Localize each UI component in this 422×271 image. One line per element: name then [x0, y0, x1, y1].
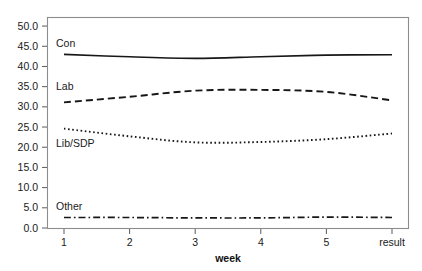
y-tick-label: 10.0	[18, 181, 39, 193]
y-tick-label: 5.0	[23, 201, 38, 213]
series-line-other	[64, 217, 392, 218]
series-line-lib-sdp	[64, 129, 392, 143]
series-inline-label-group: ConLabLib/SDPOther	[56, 37, 95, 211]
x-tick-label: 2	[127, 236, 133, 248]
series-label-con: Con	[56, 37, 75, 49]
y-tick-label: 25.0	[18, 121, 39, 133]
series-group	[64, 54, 392, 218]
page-caption	[0, 257, 422, 271]
y-tick-label: 35.0	[18, 80, 39, 92]
y-tick-label: 45.0	[18, 40, 39, 52]
series-label-other: Other	[56, 200, 83, 212]
line-chart: 0.05.010.015.020.025.030.035.040.045.050…	[0, 0, 422, 271]
y-axis-tick-group	[42, 26, 48, 228]
plot-frame	[48, 18, 409, 229]
y-tick-label: 30.0	[18, 100, 39, 112]
x-axis-tick-group	[64, 229, 392, 235]
x-tick-label: result	[379, 236, 405, 248]
y-tick-label: 50.0	[18, 20, 39, 32]
x-tick-label: 5	[323, 236, 329, 248]
series-label-lib-sdp: Lib/SDP	[56, 137, 95, 149]
y-tick-label: 40.0	[18, 60, 39, 72]
series-label-lab: Lab	[56, 80, 74, 92]
x-tick-label: 4	[258, 236, 264, 248]
y-tick-label: 20.0	[18, 141, 39, 153]
y-tick-label: 0.0	[23, 222, 38, 234]
series-line-con	[64, 54, 392, 58]
y-tick-label: 15.0	[18, 161, 39, 173]
x-tick-label: 1	[61, 236, 67, 248]
x-tick-label: 3	[192, 236, 198, 248]
x-axis-label-group: 12345result	[61, 236, 405, 248]
y-axis-label-group: 0.05.010.015.020.025.030.035.040.045.050…	[18, 20, 39, 234]
chart-container: 0.05.010.015.020.025.030.035.040.045.050…	[0, 0, 422, 271]
series-line-lab	[64, 90, 392, 103]
